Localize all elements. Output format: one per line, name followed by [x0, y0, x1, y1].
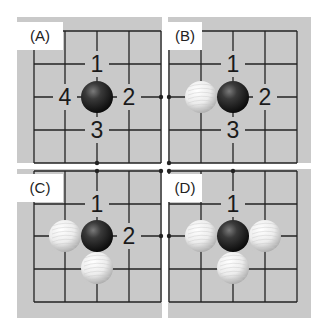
edge-dot	[159, 234, 163, 238]
black-stone	[217, 220, 249, 252]
panel-label: (B)	[175, 27, 195, 44]
liberty-number: 3	[227, 117, 240, 143]
white-stone	[249, 220, 281, 252]
edge-dot	[167, 95, 171, 99]
liberty-number: 2	[259, 84, 272, 110]
black-stone	[81, 81, 113, 113]
white-stone	[185, 220, 217, 252]
edge-dot	[167, 161, 171, 165]
liberty-number: 1	[227, 51, 240, 77]
edge-dot	[231, 169, 235, 173]
liberty-number: 4	[59, 84, 72, 110]
liberty-number: 3	[91, 117, 104, 143]
white-stone	[81, 252, 113, 284]
liberty-number: 2	[123, 223, 136, 249]
liberty-number: 1	[91, 51, 104, 77]
edge-dot	[167, 169, 171, 173]
panel-a: 1234(A)	[17, 17, 163, 165]
panel-c: 12(C)	[17, 169, 163, 318]
black-stone	[81, 220, 113, 252]
black-stone	[217, 81, 249, 113]
white-stone	[49, 220, 81, 252]
liberty-number: 1	[91, 191, 104, 217]
panel-d: 1(D)	[167, 169, 311, 318]
panel-b: 123(B)	[167, 17, 311, 165]
panel-label: (A)	[30, 27, 50, 44]
liberty-number: 1	[227, 191, 240, 217]
go-liberties-diagram: 1234(A)123(B)12(C)1(D)	[0, 0, 327, 332]
edge-dot	[95, 169, 99, 173]
edge-dot	[159, 95, 163, 99]
panel-label: (C)	[30, 179, 51, 196]
edge-dot	[95, 161, 99, 165]
liberty-number: 2	[123, 84, 136, 110]
panel-label: (D)	[175, 179, 196, 196]
edge-dot	[159, 169, 163, 173]
edge-dot	[167, 234, 171, 238]
white-stone	[185, 81, 217, 113]
white-stone	[217, 252, 249, 284]
